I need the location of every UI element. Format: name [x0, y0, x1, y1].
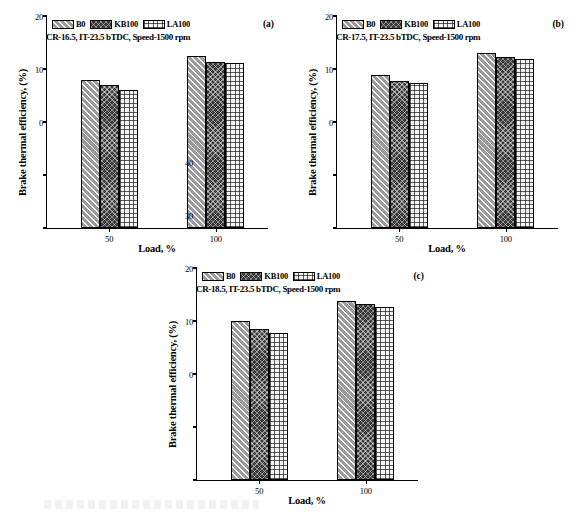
y-axis-tick-mark — [193, 267, 197, 268]
bar-b0-load-100 — [477, 53, 496, 228]
chart-panel-a: B0KB100LA100CR-16.5, IT-23.5 bTDC, Speed… — [0, 0, 290, 258]
plot-area: 01020304050100 — [46, 16, 268, 229]
bar-la100-load-100 — [375, 307, 394, 480]
plot-area: 01020304050100 — [196, 268, 418, 481]
x-axis-label: Load, % — [336, 243, 558, 254]
bar-kb100-load-100 — [206, 62, 225, 228]
y-axis-label: Brake thermal efficiency, (%) — [167, 321, 178, 448]
bar-la100-load-100 — [225, 63, 244, 228]
y-axis-tick-label: 30 — [185, 211, 197, 221]
x-axis-tick-label: 100 — [210, 234, 222, 244]
x-axis-tick-mark — [506, 228, 507, 232]
x-axis-tick-mark — [259, 480, 260, 484]
y-axis-tick-mark — [43, 15, 47, 16]
x-axis-tick-label: 100 — [500, 234, 512, 244]
bar-la100-load-50 — [409, 83, 428, 228]
y-axis-tick-mark — [333, 174, 337, 175]
y-axis-tick-mark — [43, 174, 47, 175]
y-axis-tick-mark — [333, 227, 337, 228]
y-axis-tick-mark — [333, 68, 337, 69]
bar-kb100-load-100 — [356, 304, 375, 480]
bar-la100-load-50 — [119, 90, 138, 228]
bar-b0-load-100 — [337, 301, 356, 480]
bar-b0-load-100 — [187, 56, 206, 228]
page-footer-artifact — [44, 500, 259, 509]
y-axis-tick-label: 40 — [185, 158, 197, 168]
bar-kb100-load-50 — [250, 329, 269, 480]
plot-area: 01020304050100 — [336, 16, 558, 229]
y-axis-tick-mark — [43, 227, 47, 228]
bar-la100-load-100 — [515, 59, 534, 228]
bar-kb100-load-100 — [496, 57, 515, 228]
bar-b0-load-50 — [81, 80, 100, 228]
bar-kb100-load-50 — [100, 85, 119, 228]
bar-b0-load-50 — [371, 75, 390, 228]
y-axis-tick-mark — [333, 15, 337, 16]
bar-b0-load-50 — [231, 321, 250, 480]
y-axis-tick-mark — [43, 121, 47, 122]
x-axis-label: Load, % — [46, 243, 268, 254]
y-axis-tick-mark — [333, 121, 337, 122]
y-axis-tick-mark — [193, 373, 197, 374]
x-axis-tick-label: 50 — [255, 486, 263, 496]
bar-kb100-load-50 — [390, 81, 409, 228]
y-axis-tick-mark — [193, 320, 197, 321]
y-axis-tick-mark — [193, 426, 197, 427]
y-axis-tick-mark — [43, 68, 47, 69]
x-axis-tick-mark — [366, 480, 367, 484]
x-axis-tick-label: 100 — [360, 486, 372, 496]
x-axis-tick-mark — [109, 228, 110, 232]
x-axis-tick-mark — [216, 228, 217, 232]
y-axis-label: Brake thermal efficiency, (%) — [307, 69, 318, 196]
bar-la100-load-50 — [269, 333, 288, 481]
y-axis-label: Brake thermal efficiency, (%) — [17, 69, 28, 196]
x-axis-tick-label: 50 — [105, 234, 113, 244]
y-axis-tick-mark — [193, 479, 197, 480]
x-axis-tick-mark — [399, 228, 400, 232]
chart-panel-c: B0KB100LA100CR-18.5, IT-23.5 bTDC, Speed… — [150, 256, 440, 518]
chart-panel-b: B0KB100LA100CR-17.5, IT-23.5 bTDC, Speed… — [290, 0, 580, 258]
x-axis-tick-label: 50 — [395, 234, 403, 244]
